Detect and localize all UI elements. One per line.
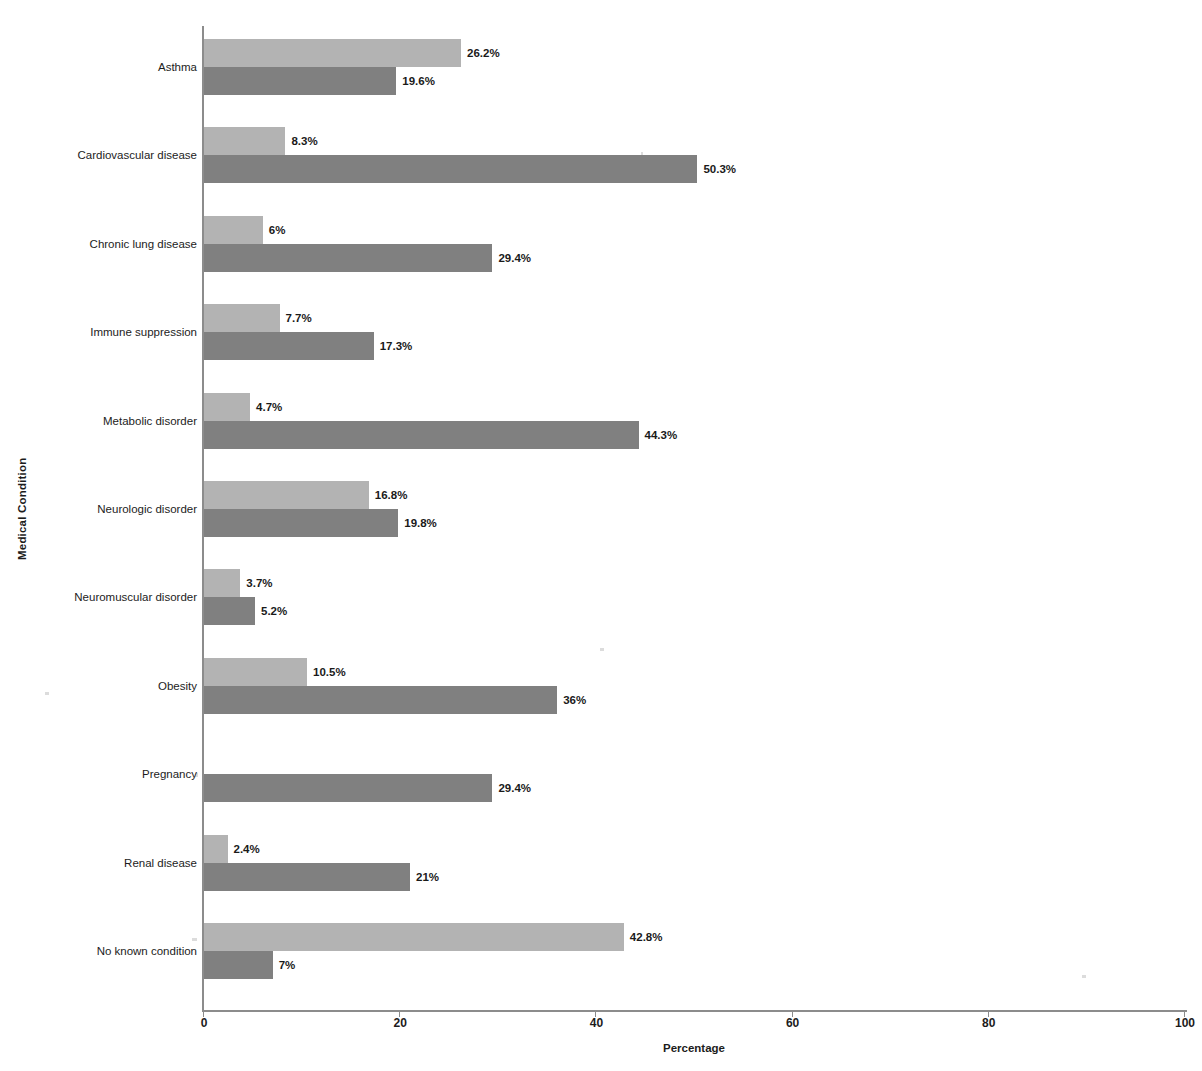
- y-axis-category-label: No known condition: [97, 945, 197, 957]
- bar-value-label: 7%: [279, 959, 296, 971]
- bar-value-label: 19.6%: [402, 75, 435, 87]
- bar-value-label: 44.3%: [645, 429, 678, 441]
- bar-value-label: 4.7%: [256, 401, 282, 413]
- x-axis-line: [202, 1010, 1187, 1012]
- bar-series-a: [204, 216, 263, 244]
- bar-series-b: [204, 951, 273, 979]
- bar-value-label: 29.4%: [498, 782, 531, 794]
- bar-series-a: [204, 393, 250, 421]
- bar-value-label: 17.3%: [380, 340, 413, 352]
- y-axis-category-label: Neurologic disorder: [97, 503, 197, 515]
- y-axis-category-label: Pregnancy: [142, 768, 197, 780]
- bar-value-label: 3.7%: [246, 577, 272, 589]
- y-axis-category-label: Neuromuscular disorder: [74, 591, 197, 603]
- bar-value-label: 26.2%: [467, 47, 500, 59]
- x-axis-tick-label: 80: [982, 1016, 995, 1030]
- bar-value-label: 42.8%: [630, 931, 663, 943]
- scan-artifact: [45, 692, 49, 695]
- bar-series-b: [204, 686, 557, 714]
- y-axis-category-label: Cardiovascular disease: [77, 149, 197, 161]
- bar-value-label: 8.3%: [291, 135, 317, 147]
- scan-artifact: [600, 648, 604, 651]
- bar-series-a: [204, 835, 228, 863]
- x-axis-tick-label: 0: [201, 1016, 208, 1030]
- bar-value-label: 36%: [563, 694, 586, 706]
- bar-series-a: [204, 304, 280, 332]
- y-axis-category-label: Immune suppression: [90, 326, 197, 338]
- bar-value-label: 7.7%: [286, 312, 312, 324]
- bar-series-b: [204, 421, 639, 449]
- x-axis-tick-label: 60: [786, 1016, 799, 1030]
- bar-series-b: [204, 863, 410, 891]
- x-axis-tick-label: 40: [590, 1016, 603, 1030]
- bar-series-a: [204, 481, 369, 509]
- y-axis-category-label: Obesity: [158, 680, 197, 692]
- y-axis-category-label: Chronic lung disease: [90, 238, 197, 250]
- x-axis-title: Percentage: [203, 1042, 1185, 1054]
- y-axis-category-label: Asthma: [158, 61, 197, 73]
- bar-series-b: [204, 67, 396, 95]
- x-axis-tick-label: 100: [1175, 1016, 1195, 1030]
- bar-value-label: 29.4%: [498, 252, 531, 264]
- scan-artifact: [192, 938, 197, 941]
- bar-value-label: 6%: [269, 224, 286, 236]
- bar-series-a: [204, 39, 461, 67]
- bar-value-label: 16.8%: [375, 489, 408, 501]
- bar-value-label: 21%: [416, 871, 439, 883]
- bar-value-label: 10.5%: [313, 666, 346, 678]
- bar-chart: Medical Condition Asthma26.2%19.6%Cardio…: [0, 0, 1202, 1071]
- scan-artifact: [1082, 975, 1086, 978]
- bar-value-label: 50.3%: [703, 163, 736, 175]
- bar-series-b: [204, 332, 374, 360]
- bar-value-label: 5.2%: [261, 605, 287, 617]
- bar-value-label: 19.8%: [404, 517, 437, 529]
- bar-series-a: [204, 923, 624, 951]
- bar-series-a: [204, 658, 307, 686]
- bar-value-label: 2.4%: [234, 843, 260, 855]
- y-axis-category-label: Renal disease: [124, 857, 197, 869]
- bar-series-b: [204, 155, 697, 183]
- x-axis-tick-label: 20: [394, 1016, 407, 1030]
- y-axis-title: Medical Condition: [16, 380, 32, 560]
- bar-series-a: [204, 127, 285, 155]
- bar-series-b: [204, 244, 492, 272]
- bar-series-b: [204, 597, 255, 625]
- bar-series-b: [204, 509, 398, 537]
- bar-series-b: [204, 774, 492, 802]
- y-axis-category-label: Metabolic disorder: [103, 415, 197, 427]
- bar-series-a: [204, 569, 240, 597]
